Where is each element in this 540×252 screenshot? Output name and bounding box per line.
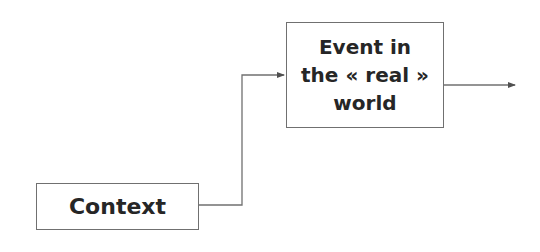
context-node-label: Context [69, 194, 166, 219]
context-node: Context [36, 183, 199, 230]
event-node: Event in the « real » world [286, 22, 444, 128]
context-to-event-arrow [199, 75, 284, 205]
event-node-label: Event in the « real » world [301, 33, 429, 117]
